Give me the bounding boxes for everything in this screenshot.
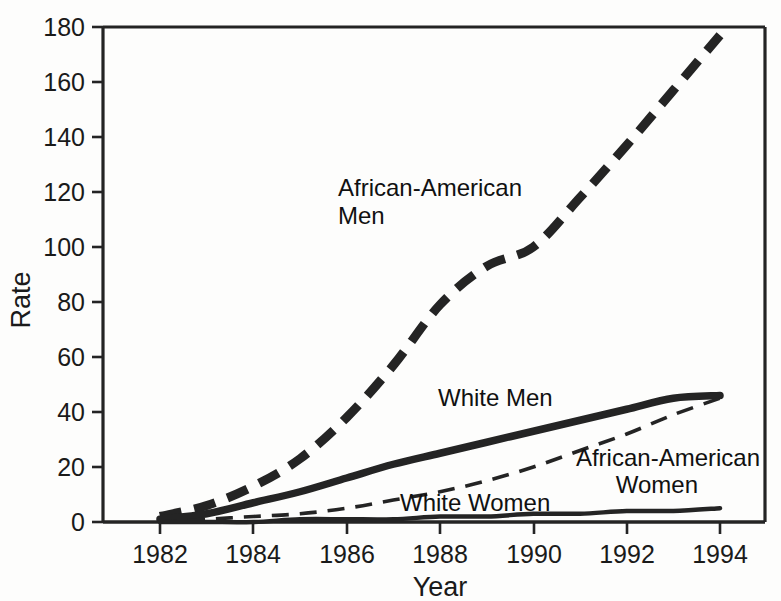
- x-tick-label-1984: 1984: [225, 540, 281, 568]
- rate-by-year-line-chart: 0 20 40 60 80 100 120 140 160 180 1982 1…: [0, 0, 781, 601]
- x-axis-tick-labels: 1982 1984 1986 1988 1990 1992 1994: [132, 540, 748, 568]
- y-tick-label-180: 180: [43, 13, 85, 41]
- annotation-african-american-women-line2: Women: [616, 471, 698, 498]
- x-tick-label-1990: 1990: [506, 540, 562, 568]
- y-tick-label-160: 160: [43, 68, 85, 96]
- y-axis-title: Rate: [6, 271, 36, 328]
- y-tick-label-140: 140: [43, 123, 85, 151]
- annotation-white-women: White Women: [400, 489, 550, 516]
- y-tick-label-60: 60: [57, 343, 85, 371]
- y-tick-label-80: 80: [57, 288, 85, 316]
- x-tick-label-1988: 1988: [412, 540, 468, 568]
- annotation-white-men: White Men: [438, 384, 553, 411]
- y-tick-label-100: 100: [43, 233, 85, 261]
- x-tick-label-1982: 1982: [132, 540, 188, 568]
- chart-page: 0 20 40 60 80 100 120 140 160 180 1982 1…: [0, 0, 781, 601]
- y-tick-label-40: 40: [57, 398, 85, 426]
- x-tick-label-1986: 1986: [319, 540, 375, 568]
- y-tick-label-120: 120: [43, 178, 85, 206]
- annotation-african-american-men-line2: Men: [338, 202, 385, 229]
- x-tick-label-1992: 1992: [599, 540, 655, 568]
- y-axis-ticks: [92, 27, 103, 522]
- y-tick-label-0: 0: [71, 508, 85, 536]
- annotation-african-american-men-line1: African-American: [338, 174, 522, 201]
- x-axis-title: Year: [413, 572, 468, 601]
- x-tick-label-1994: 1994: [692, 540, 748, 568]
- y-axis-tick-labels: 0 20 40 60 80 100 120 140 160 180: [43, 13, 85, 536]
- annotation-african-american-women-line1: African-American: [576, 444, 760, 471]
- y-tick-label-20: 20: [57, 453, 85, 481]
